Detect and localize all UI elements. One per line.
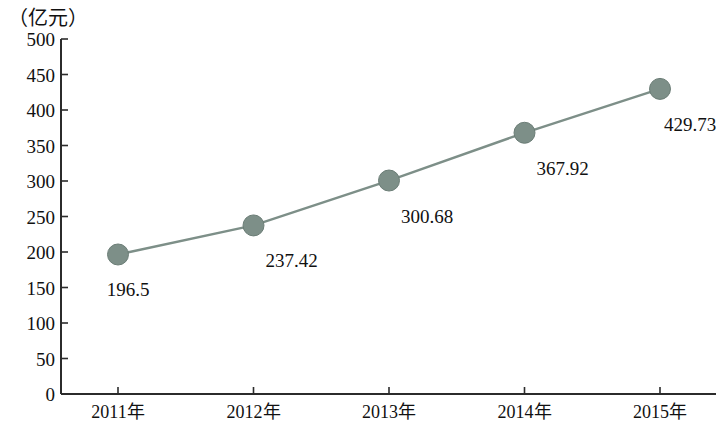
x-tick-label: 2014年	[498, 403, 552, 421]
x-tick-label: 2011年	[91, 403, 144, 421]
data-point-label: 237.42	[265, 251, 317, 270]
y-tick-label: 250	[5, 208, 55, 227]
data-point-label: 429.73	[664, 115, 716, 134]
chart-plot-area	[0, 0, 716, 426]
data-point-marker	[650, 78, 671, 99]
data-point-label: 367.92	[536, 159, 588, 178]
y-tick-label: 200	[5, 243, 55, 262]
y-tick-label: 0	[5, 385, 55, 404]
x-tick-label: 2015年	[633, 403, 687, 421]
y-tick-label: 450	[5, 66, 55, 85]
y-tick-label: 500	[5, 30, 55, 49]
data-point-marker	[379, 170, 400, 191]
y-tick-label: 300	[5, 172, 55, 191]
data-point-marker	[108, 244, 129, 265]
y-tick-label: 50	[5, 350, 55, 369]
x-tick-marks	[118, 387, 660, 394]
y-tick-label: 100	[5, 314, 55, 333]
data-point-label: 300.68	[401, 207, 453, 226]
data-point-label: 196.5	[107, 280, 150, 299]
x-tick-label: 2013年	[362, 403, 416, 421]
y-tick-marks	[61, 39, 68, 359]
data-point-marker	[243, 215, 264, 236]
data-point-marker	[514, 122, 535, 143]
x-tick-label: 2012年	[227, 403, 281, 421]
y-tick-label: 400	[5, 101, 55, 120]
y-tick-label: 150	[5, 279, 55, 298]
y-tick-label: 350	[5, 137, 55, 156]
axes-group	[61, 39, 716, 394]
line-chart: （亿元） 500450400350300250200150100500 2011…	[0, 0, 716, 426]
